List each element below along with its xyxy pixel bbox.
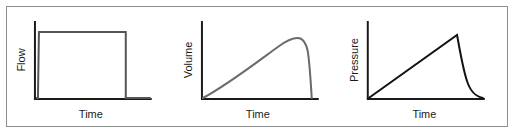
volume-x-axis-label: Time xyxy=(246,108,270,120)
volume-y-axis-label: Volume xyxy=(182,42,194,79)
volume-curve xyxy=(203,38,312,98)
flow-x-axis-label: Time xyxy=(79,108,103,120)
volume-waveform-plot: Volume Time xyxy=(174,7,341,126)
chart-pressure: Pressure Time xyxy=(340,7,507,126)
flow-waveform-plot: Flow Time xyxy=(7,7,174,126)
pressure-x-axis-label: Time xyxy=(413,108,437,120)
pressure-y-axis-label: Pressure xyxy=(348,38,360,82)
charts-row: Flow Time Volume Time xyxy=(7,7,507,126)
chart-volume: Volume Time xyxy=(174,7,341,126)
flow-y-axis-label: Flow xyxy=(15,48,27,71)
pressure-waveform-plot: Pressure Time xyxy=(340,7,507,126)
flow-curve xyxy=(36,32,151,98)
chart-flow: Flow Time xyxy=(7,7,174,126)
pressure-curve xyxy=(369,35,483,98)
ventilator-waveforms-figure: Flow Time Volume Time xyxy=(0,0,514,135)
figure-panel: Flow Time Volume Time xyxy=(6,6,508,127)
